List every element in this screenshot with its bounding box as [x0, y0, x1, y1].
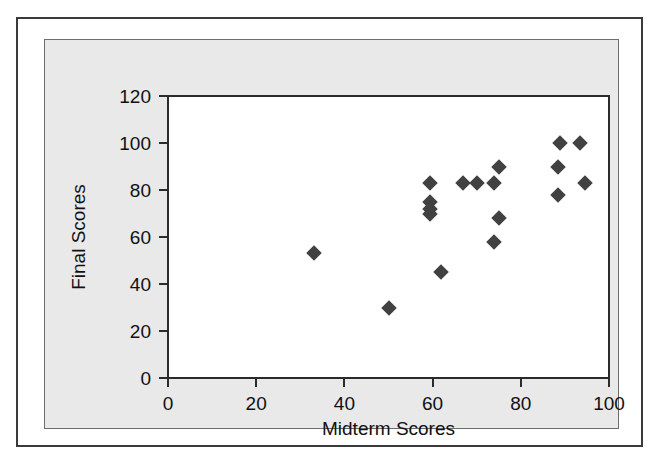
y-axis-title: Final Scores [68, 167, 90, 307]
x-tick-label: 0 [138, 394, 198, 413]
y-tick-mark [159, 236, 168, 238]
y-tick-mark [159, 330, 168, 332]
y-tick-label: 0 [81, 369, 151, 388]
x-tick-label: 60 [403, 394, 463, 413]
x-tick-label: 100 [579, 394, 639, 413]
plot-area [167, 95, 609, 378]
y-tick-label: 100 [81, 134, 151, 153]
y-tick-mark [159, 283, 168, 285]
axis-x [167, 377, 610, 379]
x-tick-label: 40 [314, 394, 374, 413]
x-tick-mark [432, 378, 434, 387]
x-tick-label: 80 [491, 394, 551, 413]
y-tick-label: 20 [81, 322, 151, 341]
y-tick-mark [159, 95, 168, 97]
x-tick-mark [343, 378, 345, 387]
figure-frame: 020406080100120 020406080100 Final Score… [16, 17, 643, 447]
y-tick-mark [159, 189, 168, 191]
y-tick-label: 120 [81, 87, 151, 106]
axis-top-spine [167, 95, 610, 97]
x-tick-mark [255, 378, 257, 387]
x-tick-label: 20 [226, 394, 286, 413]
x-tick-mark [167, 378, 169, 387]
axis-right-spine [608, 95, 610, 379]
chart-panel: 020406080100120 020406080100 Final Score… [44, 39, 619, 429]
x-axis-title: Midterm Scores [167, 418, 610, 440]
y-tick-label: 60 [81, 228, 151, 247]
y-tick-label: 40 [81, 275, 151, 294]
y-tick-mark [159, 142, 168, 144]
x-tick-mark [608, 378, 610, 387]
x-tick-mark [520, 378, 522, 387]
y-tick-label: 80 [81, 181, 151, 200]
